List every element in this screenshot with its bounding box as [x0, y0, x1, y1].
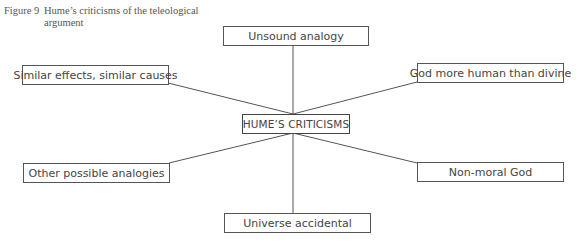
connector-lower-right [293, 133, 417, 163]
connector-upper-left [168, 83, 293, 114]
node-universe-accidental: Universe accidental [224, 213, 371, 233]
connector-upper-right [293, 82, 417, 114]
node-other-analogies: Other possible analogies [23, 163, 170, 183]
connector-lower-left [169, 133, 293, 163]
node-unsound-analogy: Unsound analogy [223, 26, 369, 46]
node-humes-criticisms: HUME’S CRITICISMS [242, 114, 350, 134]
node-non-moral-god: Non-moral God [417, 162, 564, 182]
node-god-more-human: God more human than divine [417, 63, 564, 83]
node-similar-effects: Similar effects, similar causes [22, 65, 169, 85]
